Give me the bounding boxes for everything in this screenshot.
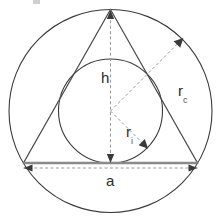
circumradius-measure-line [111,39,183,111]
circumradius-arrow [174,38,184,48]
height-label: h [101,70,109,85]
inradius-arrow [139,139,149,149]
inradius-label: ri [126,124,133,143]
side-length-label: a [106,173,114,188]
circumradius-label-subscript: c [183,95,188,105]
inradius-label-subscript: i [131,136,133,146]
height-arrow-bottom [107,154,114,163]
scan-artifact [33,0,40,4]
circumradius-label: rc [178,83,188,102]
geometry-diagram: h a rc ri [0,0,221,217]
